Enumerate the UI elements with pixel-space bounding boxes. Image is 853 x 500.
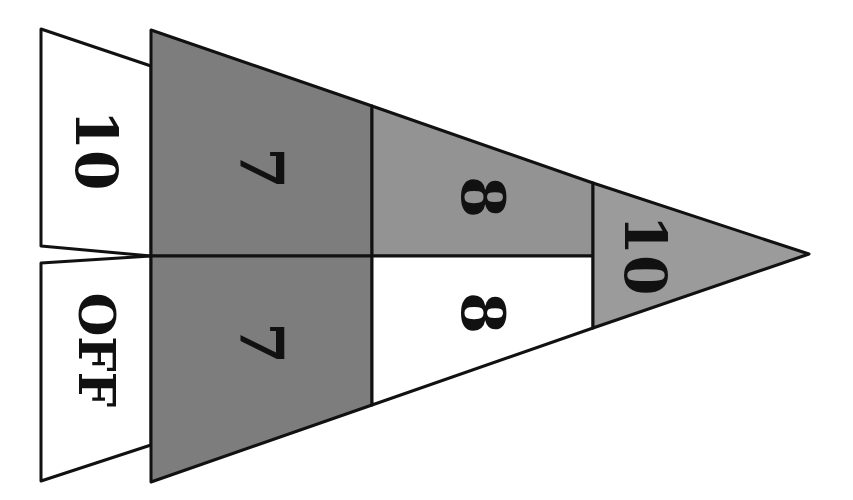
label-seven-bottom: 7 <box>227 322 297 364</box>
label-ten-tip: 10 <box>611 215 679 296</box>
label-ten-left: 10 <box>62 110 130 191</box>
label-off: OFF <box>67 293 126 408</box>
section-seven-top <box>151 30 372 256</box>
label-eight-top: 8 <box>448 176 518 218</box>
label-eight-bottom: 8 <box>448 292 518 334</box>
pennant-diagram: 10 OFF 7 7 8 8 10 <box>0 0 853 500</box>
label-seven-top: 7 <box>227 147 297 189</box>
section-seven-bottom <box>151 256 372 482</box>
